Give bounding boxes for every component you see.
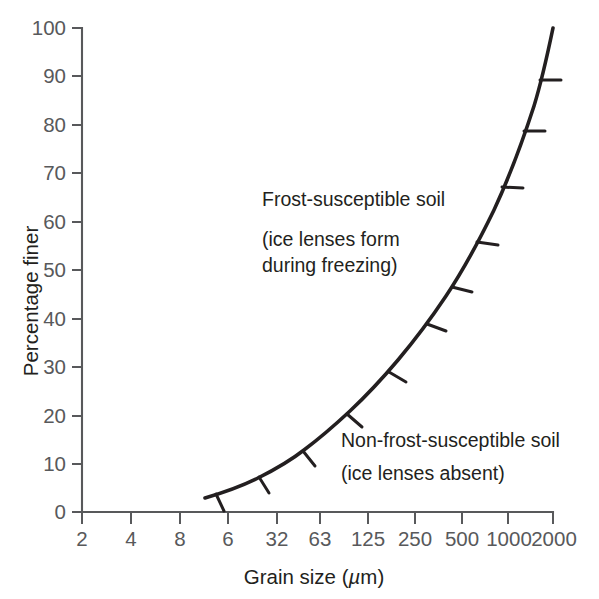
annotation-non-frost-susceptible: Non-frost-susceptible soil (ice lenses a… <box>341 427 560 486</box>
x-axis-ticks <box>82 512 553 524</box>
x-tick-label: 4 <box>125 527 136 550</box>
y-tick-label: 20 <box>43 404 66 427</box>
y-tick-label: 10 <box>43 452 66 475</box>
x-tick-label: 250 <box>398 527 432 550</box>
y-tick-label: 50 <box>43 258 66 281</box>
annotation-nonfrost-line-2: (ice lenses absent) <box>341 460 560 486</box>
annotation-frost-line-1: Frost-susceptible soil <box>262 186 445 212</box>
x-tick-label: 63 <box>309 527 332 550</box>
x-tick-label: 125 <box>351 527 385 550</box>
annotation-frost-susceptible: Frost-susceptible soil (ice lenses form … <box>262 186 445 278</box>
annotation-frost-line-3: during freezing) <box>262 252 445 278</box>
x-axis-title-main: Grain size ( <box>244 565 349 588</box>
annotation-nonfrost-line-1: Non-frost-susceptible soil <box>341 427 560 453</box>
x-tick-label: 2000 <box>531 527 577 550</box>
x-axis-title: Grain size (µm) <box>244 565 385 588</box>
y-tick-label: 80 <box>43 113 66 136</box>
x-axis-title-tail: m) <box>360 565 384 588</box>
y-tick-label: 40 <box>43 307 66 330</box>
y-tick-label: 0 <box>55 500 66 523</box>
x-axis-tick-labels: 2 4 8 6 32 63 125 250 500 1000 2000 <box>76 527 577 550</box>
x-tick-label: 1000 <box>486 527 532 550</box>
y-axis-ticks <box>72 28 82 512</box>
chart-plot-area: 100 90 80 70 60 50 40 30 20 10 0 <box>0 0 599 599</box>
y-tick-label: 70 <box>43 161 66 184</box>
y-axis-tick-labels: 100 90 80 70 60 50 40 30 20 10 0 <box>32 16 66 523</box>
y-tick-label: 90 <box>43 64 66 87</box>
x-axis-title-mu: µ <box>348 565 361 588</box>
annotation-frost-line-2: (ice lenses form <box>262 226 445 252</box>
frost-susceptibility-chart: 100 90 80 70 60 50 40 30 20 10 0 <box>0 0 599 599</box>
x-tick-label: 6 <box>222 527 233 550</box>
x-tick-label: 8 <box>174 527 185 550</box>
y-tick-label: 60 <box>43 210 66 233</box>
x-tick-label: 2 <box>76 527 87 550</box>
y-tick-label: 30 <box>43 355 66 378</box>
x-tick-label: 500 <box>445 527 479 550</box>
x-tick-label: 32 <box>266 527 289 550</box>
y-tick-label: 100 <box>32 16 66 39</box>
